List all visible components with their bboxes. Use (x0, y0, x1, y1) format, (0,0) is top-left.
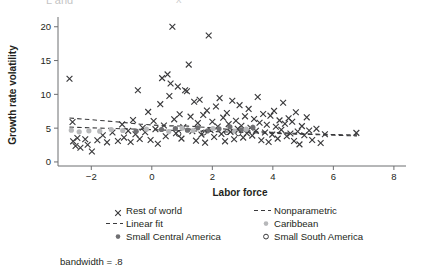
marker-x-icon (257, 120, 263, 126)
marker-x-icon (289, 119, 295, 125)
marker-dot-icon (159, 127, 164, 132)
legend-label: Rest of world (126, 205, 182, 216)
artifact-text-right: x (176, 0, 182, 5)
marker-x-icon (233, 118, 239, 124)
y-tick-label: 10 (40, 89, 51, 100)
marker-x-icon (291, 138, 297, 144)
marker-x-icon (175, 84, 181, 90)
marker-x-icon (220, 115, 226, 121)
legend-marker-x-icon (115, 210, 121, 216)
data-points (67, 24, 360, 155)
marker-x-icon (135, 87, 141, 93)
x-tick-label: 0 (149, 171, 154, 182)
marker-x-icon (271, 108, 277, 114)
marker-x-icon (295, 129, 301, 135)
marker-x-icon (249, 133, 255, 139)
marker-x-icon (264, 122, 270, 128)
marker-x-icon (151, 118, 157, 124)
marker-x-icon (128, 139, 134, 145)
marker-x-icon (280, 100, 286, 106)
axes (58, 17, 406, 166)
marker-x-icon (293, 109, 299, 115)
marker-x-icon (304, 114, 310, 120)
marker-x-icon (169, 24, 175, 30)
top-cropped-artifact: L and x (0, 0, 422, 9)
marker-x-icon (188, 114, 194, 120)
marker-x-icon (163, 133, 169, 139)
bandwidth-note: bandwidth = .8 (60, 256, 123, 267)
marker-x-icon (273, 124, 279, 130)
marker-x-icon (193, 138, 199, 144)
marker-x-icon (209, 119, 215, 125)
marker-x-icon (145, 109, 151, 115)
marker-x-icon (246, 106, 252, 112)
marker-dot-icon (250, 125, 255, 130)
marker-x-icon (67, 76, 73, 82)
marker-dot-icon (195, 125, 200, 130)
marker-x-icon (202, 140, 208, 146)
marker-x-icon (197, 97, 203, 103)
marker-x-icon (268, 113, 274, 119)
legend-marker-dot-icon (116, 234, 121, 239)
marker-x-icon (166, 93, 172, 99)
legend-label: Small South America (274, 231, 364, 242)
marker-circle-icon (236, 131, 241, 136)
marker-x-icon (217, 95, 223, 101)
marker-x-icon (260, 111, 266, 117)
figure-container: L and x 05101520 −202468 Growth rate vol… (0, 0, 422, 277)
marker-dot-icon (97, 129, 102, 134)
legend-marker-circle-icon (264, 234, 269, 239)
marker-x-icon (104, 139, 110, 145)
x-tick-label: 4 (270, 171, 275, 182)
marker-x-icon (297, 141, 303, 147)
marker-x-icon (206, 33, 212, 39)
y-tick-label: 0 (46, 156, 51, 167)
marker-x-icon (299, 123, 305, 129)
marker-dot-icon (120, 128, 125, 133)
y-tick-label: 15 (40, 55, 51, 66)
x-tick-label: 6 (331, 171, 336, 182)
marker-dot-icon (185, 128, 190, 133)
marker-x-icon (224, 110, 230, 116)
marker-x-icon (130, 117, 136, 123)
marker-x-icon (222, 138, 228, 144)
legend-item: Small South America (264, 231, 364, 242)
marker-x-icon (251, 116, 257, 122)
marker-x-icon (204, 108, 210, 114)
marker-x-icon (177, 111, 183, 117)
marker-x-icon (242, 113, 248, 119)
artifact-text-left: L and (46, 0, 73, 6)
legend-item: Small Central America (116, 231, 222, 242)
marker-x-icon (191, 99, 197, 105)
marker-dot-icon (144, 127, 149, 132)
marker-x-icon (186, 62, 192, 68)
marker-dot-icon (239, 127, 244, 132)
marker-x-icon (137, 136, 143, 142)
marker-dot-icon (190, 128, 195, 133)
x-tick-label: 8 (391, 171, 396, 182)
legend-label: Nonparametric (274, 205, 337, 216)
marker-dot-icon (133, 129, 138, 134)
series-group (67, 24, 360, 155)
marker-x-icon (282, 121, 288, 127)
chart-legend: Rest of worldNonparametricLinear fitCari… (106, 205, 364, 242)
marker-x-icon (266, 139, 272, 145)
y-axis-ticks: 05101520 (40, 21, 58, 167)
legend-label: Caribbean (274, 218, 318, 229)
marker-x-icon (213, 104, 219, 110)
marker-x-icon (89, 149, 95, 155)
marker-x-icon (115, 138, 121, 144)
marker-x-icon (119, 122, 125, 128)
marker-dot-icon (227, 124, 232, 129)
marker-x-icon (77, 145, 83, 151)
marker-dot-icon (86, 128, 91, 133)
marker-x-icon (82, 136, 88, 142)
legend-item: Caribbean (264, 218, 319, 229)
marker-x-icon (278, 127, 284, 133)
x-axis-title: Labor force (212, 187, 267, 198)
legend-item: Rest of world (115, 205, 182, 216)
marker-x-icon (229, 98, 235, 104)
legend-marker-dot-icon (264, 221, 269, 226)
legend-label: Linear fit (126, 218, 163, 229)
marker-x-icon (309, 137, 315, 143)
